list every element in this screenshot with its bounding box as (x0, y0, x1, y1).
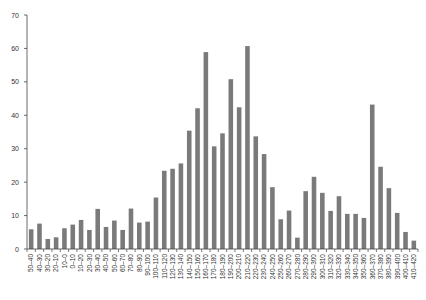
y-tick-label: 30 (11, 145, 19, 152)
x-tick-label: 260–270 (285, 254, 292, 280)
x-tick-label: 340–350 (352, 254, 359, 280)
x-tick-label: 70–80 (127, 254, 134, 272)
bar (337, 196, 342, 249)
bar-chart: 010203040506070 50–4040–3030–2020–1010–0… (0, 0, 426, 300)
bar (345, 214, 350, 249)
x-tick-label: 0–10 (69, 254, 76, 269)
y-tick-label: 20 (11, 179, 19, 186)
x-tick-label: 170–180 (210, 254, 217, 280)
x-tick-label: 140–150 (186, 254, 193, 280)
bar (95, 209, 100, 249)
x-tick-label: 300–310 (319, 254, 326, 280)
bar (245, 46, 250, 249)
x-tick-label: 380–390 (385, 254, 392, 280)
bar (295, 238, 300, 249)
x-tick-label: 30–40 (94, 254, 101, 272)
bar (353, 214, 358, 249)
x-tick-label: 350–360 (360, 254, 367, 280)
x-tick-label: 160–170 (202, 254, 209, 280)
y-tick-label: 50 (11, 78, 19, 85)
bar (220, 133, 225, 249)
x-tick-label: 40–30 (36, 254, 43, 272)
x-tick-label: 180–190 (219, 254, 226, 280)
bar (403, 232, 408, 249)
x-tick-label: 370–380 (377, 254, 384, 280)
x-tick-label: 320–330 (335, 254, 342, 280)
x-tick-label: 10–0 (61, 254, 68, 269)
x-tick-label: 200–210 (235, 254, 242, 280)
x-tick-label: 330–340 (344, 254, 351, 280)
bar (79, 220, 84, 249)
x-tick-label: 150–160 (194, 254, 201, 280)
bar (312, 177, 317, 249)
bar (362, 218, 367, 249)
x-tick-label: 280–290 (302, 254, 309, 280)
bar (54, 237, 59, 249)
x-tick-label: 190–200 (227, 254, 234, 280)
bar (229, 79, 234, 249)
bar (195, 108, 200, 249)
x-tick-label: 400–410 (402, 254, 409, 280)
bar (179, 163, 184, 249)
x-tick-label: 360–370 (369, 254, 376, 280)
bar (412, 241, 417, 249)
x-tick-label: 390–400 (394, 254, 401, 280)
bar (187, 131, 192, 249)
bar (104, 227, 109, 249)
bar (237, 107, 242, 249)
x-tick-label: 10–20 (77, 254, 84, 272)
bar (120, 230, 125, 249)
x-tick-label: 270–280 (294, 254, 301, 280)
bar (387, 188, 392, 249)
bar (137, 223, 142, 249)
x-tick-label: 80–90 (136, 254, 143, 272)
bar (62, 228, 67, 249)
x-tick-label: 60–70 (119, 254, 126, 272)
bar (253, 136, 258, 249)
x-tick-label: 30–20 (44, 254, 51, 272)
x-tick-label: 290–300 (310, 254, 317, 280)
x-tick-label: 120–130 (169, 254, 176, 280)
bar (395, 213, 400, 249)
bar (370, 105, 375, 249)
bar (328, 211, 333, 249)
bar (262, 154, 267, 249)
x-tick-label: 50–40 (27, 254, 34, 272)
x-tick-label: 220–230 (252, 254, 259, 280)
x-tick-label: 20–10 (52, 254, 59, 272)
x-tick-label: 40–50 (102, 254, 109, 272)
bar (29, 229, 34, 249)
bar (87, 230, 92, 249)
bar (112, 221, 117, 249)
x-axis: 50–4040–3030–2020–1010–00–1010–2020–3030… (27, 249, 418, 279)
y-tick-label: 10 (11, 212, 19, 219)
bar (270, 187, 275, 249)
x-tick-label: 50–60 (111, 254, 118, 272)
x-tick-label: 310–320 (327, 254, 334, 280)
x-tick-label: 250–260 (277, 254, 284, 280)
y-tick-label: 40 (11, 112, 19, 119)
y-tick-label: 70 (11, 12, 19, 19)
bar (70, 225, 75, 249)
x-tick-label: 240–250 (269, 254, 276, 280)
x-tick-label: 130–140 (177, 254, 184, 280)
bar (162, 171, 167, 249)
y-tick-label: 60 (11, 45, 19, 52)
bar (278, 219, 283, 249)
x-tick-label: 100–110 (152, 254, 159, 279)
bar (303, 191, 308, 249)
x-tick-label: 20–30 (86, 254, 93, 272)
bar (170, 169, 175, 249)
bar (212, 146, 217, 249)
bar (145, 222, 150, 249)
bar (154, 198, 159, 249)
x-tick-label: 410–420 (410, 254, 417, 280)
x-tick-label: 110–120 (161, 254, 168, 279)
bar (287, 211, 292, 249)
bar (320, 193, 325, 249)
bar (46, 239, 51, 249)
bars (29, 46, 416, 249)
bar (378, 167, 383, 249)
bar (204, 52, 209, 249)
bar (129, 209, 134, 249)
